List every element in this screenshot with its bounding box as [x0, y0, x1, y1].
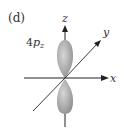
orbital-label: 4pz [26, 37, 44, 50]
x-axis-label: x [110, 73, 116, 84]
x-axis-arrowhead [101, 75, 109, 81]
z-axis-arrowhead [62, 25, 68, 32]
z-axis-label: z [62, 13, 68, 24]
orbital-subscript: z [40, 41, 44, 50]
orbital-shell-number: 4 [26, 36, 33, 49]
orbital-diagram: (d) 4pz z y x [0, 0, 124, 133]
panel-label: (d) [8, 12, 25, 24]
orbital-letter: p [33, 36, 40, 49]
y-axis-label: y [103, 27, 109, 38]
